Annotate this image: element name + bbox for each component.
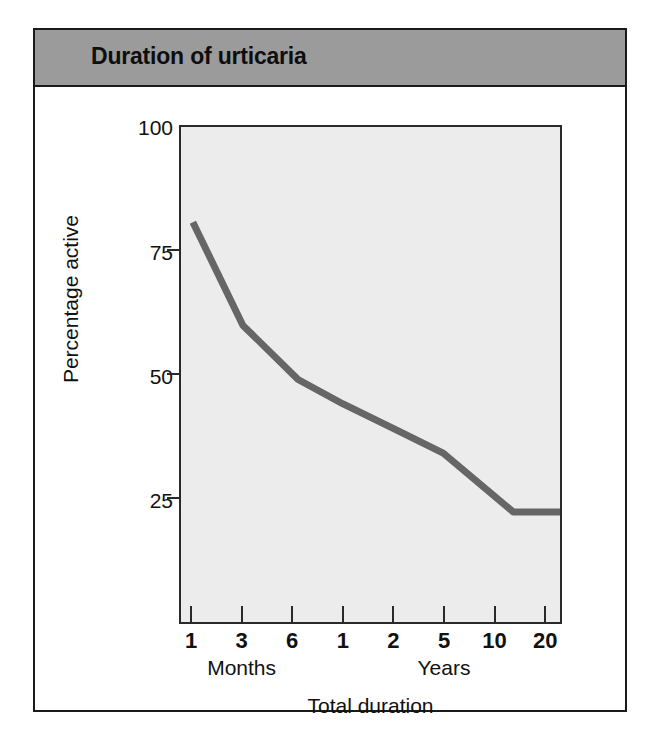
figure-frame: Duration of urticaria Percentage active … — [33, 28, 627, 712]
y-tick-label-50: 50 — [127, 366, 173, 387]
chart-body: Percentage active 100 75 50 25 136125102… — [35, 87, 625, 710]
x-tick-mark-1 — [241, 606, 243, 624]
x-tick-label-1: 3 — [220, 630, 264, 652]
x-tick-label-6: 10 — [473, 630, 517, 652]
x-group-label-months: Months — [162, 657, 322, 678]
x-axis-ticks: 1361251020MonthsYears — [179, 624, 562, 704]
x-tick-label-0: 1 — [169, 630, 213, 652]
y-tick-label-100: 100 — [127, 117, 173, 138]
x-tick-label-4: 2 — [371, 630, 415, 652]
x-tick-mark-0 — [190, 606, 192, 624]
plot-area — [179, 125, 562, 624]
title-banner: Duration of urticaria — [35, 30, 625, 87]
x-axis-title: Total duration — [179, 694, 562, 718]
x-tick-mark-3 — [342, 606, 344, 624]
x-tick-mark-7 — [544, 606, 546, 624]
y-tick-label-25: 25 — [127, 490, 173, 511]
chart-canvas — [181, 127, 560, 622]
y-tick-label-75: 75 — [127, 242, 173, 263]
y-axis-title: Percentage active — [59, 189, 83, 409]
y-axis-ticks: 100 75 50 25 — [115, 87, 173, 710]
x-tick-label-5: 5 — [422, 630, 466, 652]
x-tick-mark-2 — [291, 606, 293, 624]
x-tick-mark-5 — [443, 606, 445, 624]
x-tick-mark-4 — [392, 606, 394, 624]
x-tick-label-2: 6 — [270, 630, 314, 652]
x-tick-label-7: 20 — [523, 630, 567, 652]
x-tick-mark-6 — [494, 606, 496, 624]
data-line-percentage-active — [193, 222, 560, 512]
page-title: Duration of urticaria — [91, 43, 307, 70]
x-tick-label-3: 1 — [321, 630, 365, 652]
x-group-label-years: Years — [364, 657, 524, 678]
